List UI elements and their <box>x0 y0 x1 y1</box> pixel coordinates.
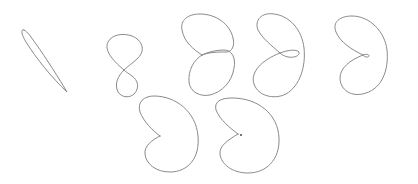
curve-6-cardioid-cusp <box>139 96 198 172</box>
curve-sequence-figure <box>0 0 418 184</box>
curve-7-cardioid-cusp-dot <box>216 98 279 173</box>
center-dot <box>240 134 242 136</box>
curve-1-leaf <box>22 30 67 92</box>
curve-4-kidney-inner-loop <box>253 14 304 97</box>
curve-3-overlapping-lobes <box>182 14 235 95</box>
curve-5-kidney-tiny-loop <box>335 16 387 95</box>
curve-2-figure-eight <box>107 34 142 96</box>
